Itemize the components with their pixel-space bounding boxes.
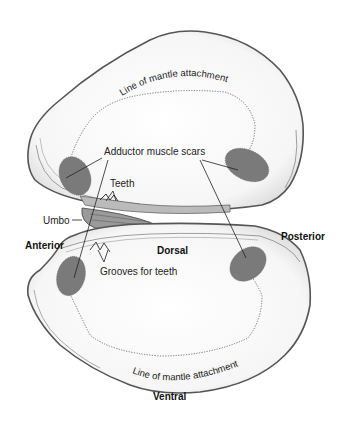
ventral-label: Ventral xyxy=(153,391,187,402)
teeth-label: Teeth xyxy=(110,178,134,189)
posterior-label: Posterior xyxy=(281,231,325,242)
upper-valve xyxy=(28,31,303,214)
bivalve-diagram: Line of mantle attachment Adductor muscl… xyxy=(0,0,341,425)
dorsal-label: Dorsal xyxy=(157,245,188,256)
anterior-label: Anterior xyxy=(25,240,64,251)
umbo-label: Umbo xyxy=(43,215,70,226)
grooves-label: Grooves for teeth xyxy=(100,266,177,277)
adductor-scars-label: Adductor muscle scars xyxy=(104,146,205,157)
